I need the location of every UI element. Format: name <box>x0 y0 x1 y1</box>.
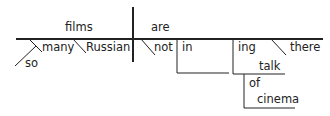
word-verb: are <box>151 22 170 34</box>
word-of: of <box>249 78 260 90</box>
there-slant <box>271 39 286 55</box>
word-cinema: cinema <box>257 94 299 106</box>
not-slant <box>141 39 155 55</box>
word-talk: talk <box>259 61 280 73</box>
word-there: there <box>290 42 320 54</box>
word-so: so <box>25 58 38 70</box>
word-not: not <box>154 42 173 54</box>
word-in: in <box>182 42 192 54</box>
russian-slant <box>73 39 86 53</box>
word-subject: films <box>65 22 93 34</box>
word-many: many <box>42 42 74 54</box>
many-slant <box>29 39 42 52</box>
word-ing: ing <box>238 42 256 54</box>
word-russian: Russian <box>86 42 130 54</box>
